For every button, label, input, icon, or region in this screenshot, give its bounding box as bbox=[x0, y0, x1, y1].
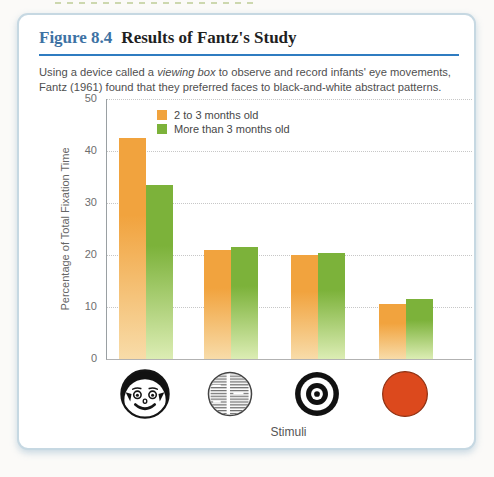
y-axis-label: Percentage of Total Fixation Time bbox=[59, 147, 71, 310]
legend-row: 2 to 3 months old bbox=[157, 108, 290, 122]
caption-text: Using a device called a bbox=[39, 66, 157, 78]
figure-caption: Using a device called a viewing box to o… bbox=[39, 65, 452, 96]
legend-swatch-orange bbox=[157, 110, 167, 120]
y-tick-label: 50 bbox=[19, 92, 97, 104]
title-divider bbox=[39, 54, 459, 56]
bar-face-older bbox=[146, 185, 173, 359]
grid-line bbox=[107, 151, 472, 152]
figure-header: Figure 8.4Results of Fantz's Study bbox=[39, 28, 458, 48]
scan-artifact bbox=[55, 2, 255, 4]
face-icon bbox=[118, 367, 172, 421]
legend: 2 to 3 months old More than 3 months old bbox=[157, 108, 290, 136]
y-tick-label: 30 bbox=[19, 196, 97, 208]
bar-bulls-eye-older bbox=[318, 253, 345, 359]
legend-label: More than 3 months old bbox=[174, 123, 290, 135]
bar-face-younger bbox=[119, 138, 146, 359]
y-tick-label: 40 bbox=[19, 144, 97, 156]
caption-italic: viewing box bbox=[157, 66, 215, 78]
bar-plain-red-disk-older bbox=[406, 299, 433, 359]
x-axis-label: Stimuli bbox=[106, 425, 471, 439]
newspaper-icon bbox=[203, 367, 257, 421]
figure-label: Figure 8.4 bbox=[39, 28, 112, 47]
y-tick-label: 20 bbox=[19, 248, 97, 260]
red-disk-icon bbox=[378, 367, 432, 421]
bar-bulls-eye-younger bbox=[291, 255, 318, 359]
plot-area: 2 to 3 months old More than 3 months old bbox=[106, 99, 472, 360]
grid-line bbox=[107, 99, 472, 100]
legend-label: 2 to 3 months old bbox=[174, 109, 258, 121]
bar-newspaper-print-older bbox=[231, 247, 258, 359]
bullseye-icon bbox=[290, 367, 344, 421]
bar-newspaper-print-younger bbox=[204, 250, 231, 359]
y-tick-label: 10 bbox=[19, 300, 97, 312]
bar-plain-red-disk-younger bbox=[379, 304, 406, 359]
figure-title: Results of Fantz's Study bbox=[121, 28, 296, 47]
y-tick-label: 0 bbox=[19, 352, 97, 364]
figure-card: Figure 8.4Results of Fantz's Study Using… bbox=[17, 13, 476, 450]
legend-swatch-green bbox=[157, 124, 167, 134]
legend-row: More than 3 months old bbox=[157, 122, 290, 136]
